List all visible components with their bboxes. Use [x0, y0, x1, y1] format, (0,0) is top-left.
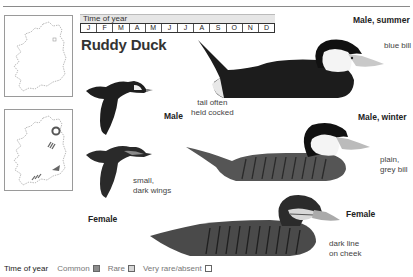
flight-female-note-line2: dark wings: [133, 186, 171, 196]
flight-male-label: Male: [164, 111, 183, 121]
distribution-map-breeding: [4, 15, 73, 97]
female-note-line1: dark line: [329, 239, 361, 249]
month-cell: N: [242, 24, 258, 32]
month-strip: J F M A M J J A S O N D: [80, 23, 275, 33]
flying-male-duck-illustration: [84, 77, 154, 137]
male-winter-note: plain, grey bill: [380, 155, 408, 175]
ireland-outline-icon: [5, 110, 74, 192]
male-winter-note-line2: grey bill: [380, 165, 408, 175]
month-cell: J: [161, 24, 177, 32]
common-ring-marker: [52, 127, 59, 134]
month-cell: A: [129, 24, 145, 32]
male-summer-note: blue bill: [384, 41, 411, 51]
legend-rare-swatch: [128, 265, 135, 272]
month-cell: S: [209, 24, 225, 32]
female-label: Female: [346, 209, 375, 219]
tail-note: tail often held cocked: [191, 98, 234, 118]
flight-female-label: Female: [88, 214, 117, 224]
month-cell: M: [145, 24, 161, 32]
female-duck-illustration: [150, 192, 340, 256]
month-cell: J: [177, 24, 193, 32]
solid-marker: [52, 165, 60, 171]
male-winter-duck-illustration: [186, 117, 371, 183]
month-cell: F: [96, 24, 112, 32]
month-cell: A: [193, 24, 209, 32]
flight-female-note: small, dark wings: [133, 176, 171, 196]
hatched-marker: [32, 174, 41, 180]
ireland-outline-icon: [5, 16, 74, 98]
species-title: Ruddy Duck: [81, 36, 167, 53]
flight-female-note-line1: small,: [133, 176, 171, 186]
female-note-line2: on cheek: [329, 249, 361, 259]
female-note: dark line on cheek: [329, 239, 361, 259]
top-rule: [3, 6, 410, 7]
legend-title: Time of year: [4, 264, 48, 273]
time-of-year-header: Time of year: [80, 14, 275, 23]
legend-very-rare-swatch: [205, 265, 212, 272]
time-of-year-label: Time of year: [83, 14, 127, 23]
legend-rare-label: Rare: [108, 264, 125, 273]
hatched-marker: [48, 142, 55, 149]
month-cell: M: [112, 24, 128, 32]
legend-very-rare-label: Very rare/absent: [143, 264, 202, 273]
legend-common-swatch: [93, 265, 100, 272]
male-winter-label: Male, winter: [358, 112, 407, 122]
legend-common-label: Common: [57, 264, 89, 273]
tail-note-line2: held cocked: [191, 108, 234, 118]
male-summer-duck-illustration: [198, 38, 388, 102]
month-cell: O: [226, 24, 242, 32]
distribution-map-wintering: [4, 109, 73, 191]
male-summer-label: Male, summer: [353, 15, 410, 25]
time-of-year-legend: Time of year Common Rare Very rare/absen…: [4, 264, 220, 273]
month-cell: J: [81, 24, 96, 32]
tail-note-line1: tail often: [191, 98, 234, 108]
male-winter-note-line1: plain,: [380, 155, 408, 165]
month-cell: D: [258, 24, 274, 32]
